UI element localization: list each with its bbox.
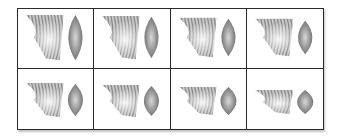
lens-shape — [68, 84, 83, 116]
striped-fan-shape — [178, 16, 218, 59]
striped-fan-shape — [178, 85, 218, 117]
striped-fan-shape — [102, 14, 142, 61]
panel-r1-c0 — [18, 69, 94, 129]
figure-grid — [17, 8, 324, 130]
panel-r1-c1 — [94, 69, 170, 129]
panel-r0-c3 — [247, 9, 323, 69]
lens-shape — [144, 86, 159, 116]
striped-fan-shape — [255, 88, 296, 116]
striped-fan-shape — [102, 83, 142, 119]
striped-fan-shape — [26, 13, 66, 62]
panel-r1-c3 — [247, 69, 323, 129]
panel-r1-c2 — [171, 69, 247, 129]
lens-shape — [145, 17, 159, 58]
lens-shape — [68, 15, 82, 60]
striped-fan-shape — [255, 17, 296, 58]
lens-shape — [221, 19, 235, 56]
panel-r0-c0 — [18, 9, 94, 69]
striped-fan-shape — [26, 81, 66, 119]
panel-r0-c2 — [171, 9, 247, 69]
lens-shape — [220, 87, 236, 115]
lens-shape — [297, 90, 313, 114]
lens-shape — [298, 21, 312, 54]
panel-r0-c1 — [94, 9, 170, 69]
